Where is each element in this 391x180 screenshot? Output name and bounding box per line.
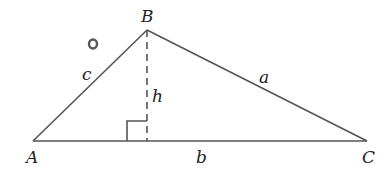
side-label-a: a bbox=[259, 67, 269, 87]
side-a bbox=[147, 30, 367, 141]
altitude-label-h: h bbox=[152, 86, 163, 106]
vertex-label-c: C bbox=[362, 147, 375, 167]
vertex-label-a: A bbox=[24, 147, 38, 167]
side-label-b: b bbox=[196, 147, 207, 167]
triangle-diagram: B A C c a b h bbox=[0, 0, 391, 180]
right-angle-marker bbox=[127, 121, 147, 141]
side-label-c: c bbox=[82, 64, 92, 84]
vertex-label-b: B bbox=[140, 6, 154, 26]
stray-circle-mark bbox=[89, 40, 97, 49]
